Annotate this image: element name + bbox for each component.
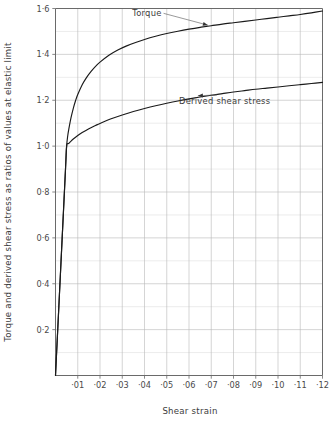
x-tick-label: ·09 <box>249 380 262 390</box>
y-axis-tick-labels: 0·20·40·60·81·01·21·41·6 <box>36 4 49 335</box>
y-tick-label: 0·8 <box>36 187 49 197</box>
x-axis-title: Shear strain <box>162 406 217 416</box>
y-tick-label: 1·4 <box>36 49 49 59</box>
torque-annotation-label: Torque <box>131 8 161 18</box>
x-axis-tick-labels: ·01·02·03·04·05·06·07·08·09·10·11·12 <box>71 380 329 390</box>
x-tick-label: ·08 <box>227 380 240 390</box>
y-axis-title: Torque and derived shear stress as ratio… <box>3 42 13 343</box>
x-tick-label: ·01 <box>71 380 84 390</box>
y-tick-label: 0·4 <box>36 279 49 289</box>
x-tick-label: ·03 <box>116 380 129 390</box>
x-tick-label: ·10 <box>271 380 284 390</box>
y-tick-label: 1·2 <box>36 95 49 105</box>
x-tick-label: ·07 <box>205 380 218 390</box>
y-tick-label: 0·6 <box>36 233 49 243</box>
x-tick-label: ·04 <box>138 380 151 390</box>
derived-shear-stress-annotation-label: Derived shear stress <box>179 96 270 106</box>
chart-figure: TorqueDerived shear stress ·01·02·03·04·… <box>0 0 333 424</box>
x-tick-label: ·12 <box>316 380 329 390</box>
shear-strain-chart: TorqueDerived shear stress ·01·02·03·04·… <box>0 0 333 424</box>
annotations-layer: TorqueDerived shear stress <box>131 8 270 107</box>
x-tick-label: ·06 <box>182 380 195 390</box>
x-tick-label: ·05 <box>160 380 173 390</box>
axis-tickmarks <box>52 9 322 379</box>
x-tick-label: ·11 <box>294 380 307 390</box>
y-tick-label: 0·2 <box>36 325 49 335</box>
torque-annotation-leader-line <box>164 13 208 25</box>
y-tick-label: 1·0 <box>36 141 49 151</box>
x-tick-label: ·02 <box>93 380 106 390</box>
y-tick-label: 1·6 <box>36 4 49 14</box>
torque-annotation-arrowhead <box>203 22 208 26</box>
